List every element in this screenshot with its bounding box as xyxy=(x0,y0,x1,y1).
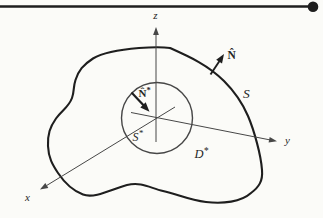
figure-page: z y x S S* D* N̂ N̂* xyxy=(0,0,323,218)
region-label-sup: * xyxy=(204,146,209,156)
x-axis-line xyxy=(47,107,176,186)
figure-svg: z y x S S* D* N̂ N̂* xyxy=(0,0,323,218)
x-axis-arrowhead xyxy=(38,183,48,192)
region-label: D* xyxy=(194,146,209,162)
y-axis-label: y xyxy=(284,134,290,146)
outer-normal-arrowhead xyxy=(216,52,227,63)
y-axis-arrowhead xyxy=(269,137,278,144)
outer-normal-label: N̂ xyxy=(228,48,237,61)
inner-normal-label-base: N̂ xyxy=(139,87,147,99)
y-axis-line xyxy=(131,113,271,141)
inner-normal-label-sup: * xyxy=(146,85,150,95)
outer-surface-label: S xyxy=(243,86,250,101)
inner-surface-label: S* xyxy=(133,128,144,144)
inner-normal-label: N̂* xyxy=(139,85,151,99)
top-rule-endpoint-dot xyxy=(308,2,319,13)
inner-surface-label-sup: * xyxy=(139,128,144,138)
z-axis-arrowhead xyxy=(153,27,159,35)
z-axis-label: z xyxy=(152,9,158,21)
outer-surface-outline xyxy=(48,47,262,203)
region-label-base: D xyxy=(194,147,204,161)
x-axis-label: x xyxy=(24,191,30,203)
